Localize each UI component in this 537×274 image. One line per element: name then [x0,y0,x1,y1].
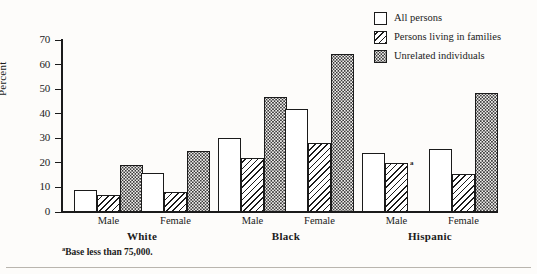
y-tick-label: 70 [28,34,50,45]
bar-black-male-diagonal-hatch [241,158,264,212]
bar-hispanic-male-solid [362,153,385,212]
y-tick-mark [55,138,61,139]
y-tick-mark [55,212,61,213]
legend-swatch-diagonal-hatch-icon [374,31,387,44]
legend-item-solid: All persons [374,10,534,29]
bar-black-male-solid [218,138,241,212]
legend-label: Persons living in families [394,30,501,44]
y-tick-mark [55,187,61,188]
bar-white-male-diagonal-hatch [97,195,120,212]
footnote: aBase less than 75,000. [62,243,153,258]
y-tick-label: 0 [28,206,50,217]
bar-black-female-solid [285,109,308,212]
legend-label: Unrelated individuals [394,49,485,63]
footnote-text: Base less than 75,000. [65,247,152,257]
y-tick-mark [55,89,61,90]
bottom-rule [6,267,531,268]
bar-white-female-diagonal-hatch [164,192,187,212]
bar-footnote-marker: a [410,160,414,167]
bar-white-male-stipple-dots [120,165,143,212]
bar-white-female-solid [141,173,164,212]
bar-hispanic-female-stipple-dots [475,93,498,212]
y-axis-title: Percent [0,62,8,96]
x-group-label-hispanic: Hispanic [380,230,480,243]
bar-black-female-diagonal-hatch [308,143,331,212]
bar-white-male-solid [74,190,97,212]
x-group-label-black: Black [236,230,336,243]
bar-chart-figure: Percent 010203040506070 a MaleFemaleMale… [0,0,537,274]
y-tick-mark [55,113,61,114]
y-tick-label: 50 [28,83,50,94]
y-tick-label: 20 [28,157,50,168]
bar-white-female-stipple-dots [187,151,210,212]
legend-item-diagonal-hatch: Persons living in families [374,29,534,48]
x-sub-label-female-3: Female [275,215,364,227]
legend-swatch-solid-icon [374,12,387,25]
bar-hispanic-female-diagonal-hatch [452,174,475,212]
y-tick-label: 10 [28,181,50,192]
y-tick-mark [55,162,61,163]
legend-swatch-stipple-dots-icon [374,50,387,63]
x-group-label-white: White [92,230,192,243]
y-tick-mark [55,64,61,65]
legend-item-stipple-dots: Unrelated individuals [374,48,534,67]
bar-hispanic-female-solid [429,149,452,212]
y-tick-mark [55,40,61,41]
legend-label: All persons [394,11,442,25]
x-sub-label-female-5: Female [419,215,508,227]
x-sub-label-female-1: Female [131,215,220,227]
bar-black-female-stipple-dots [331,54,354,212]
legend: All personsPersons living in familiesUnr… [374,10,534,67]
bar-black-male-stipple-dots [264,97,287,212]
y-tick-label: 40 [28,108,50,119]
y-tick-label: 60 [28,59,50,70]
y-tick-label: 30 [28,132,50,143]
bar-hispanic-male-diagonal-hatch [385,163,408,212]
